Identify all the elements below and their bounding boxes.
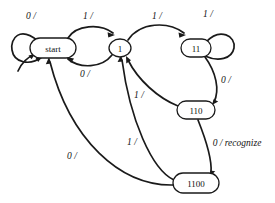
edge-label-1100-to-1: 1 / [127,137,138,147]
edge-1-to-11-path [128,25,184,40]
node-1[interactable]: 1 [109,39,131,57]
node-1-label: 1 [118,44,123,54]
edge-start-to-1-path [68,27,113,38]
edge-start-to-1 [68,27,115,38]
node-11[interactable]: 11 [181,39,211,57]
edge-label-start-to-1: 1 / [83,11,94,21]
edge-start-to-1-arrowhead [108,32,115,37]
edge-label-1-to-11: 1 / [152,11,163,21]
edge-label-110-to-1: 1 / [134,90,145,100]
fsm-canvas: start 1 11 110 1100 0 / 1 / 0 / 1 / 1 / … [0,0,275,203]
edge-110-to-1100-path [198,120,211,172]
state-machine-diagram: start 1 11 110 1100 0 / 1 / 0 / 1 / 1 / … [0,0,275,203]
node-110[interactable]: 110 [177,101,215,119]
node-110-label: 110 [189,106,203,116]
edge-label-1100-to-start: 0 / [67,151,78,161]
edge-1-to-11-arrowhead [179,33,187,38]
node-1100-label: 1100 [187,179,205,189]
edge-1100-to-start-path [50,62,173,185]
edge-11-to-110-path [205,57,217,102]
edge-label-11-self: 1 / [203,9,214,19]
node-11-label: 11 [192,44,201,54]
edge-1100-to-1 [118,55,174,180]
edge-1100-to-start [46,57,173,185]
node-start-label: start [45,44,61,54]
edge-110-to-1100 [198,120,215,176]
edge-label-110-to-1100: 0 / recognize [213,138,262,148]
edge-1-to-start [66,55,112,66]
edge-label-1-to-start: 0 / [80,69,91,79]
edge-label-start-self: 0 / [26,11,37,21]
node-start[interactable]: start [30,38,76,58]
edge-1-to-start-path [68,55,112,66]
edge-1-to-11 [128,25,186,40]
edge-label-11-to-110: 0 / [221,75,232,85]
edge-1100-to-1-path [122,60,174,180]
edge-11-to-110 [205,57,218,105]
node-1100[interactable]: 1100 [173,173,219,193]
